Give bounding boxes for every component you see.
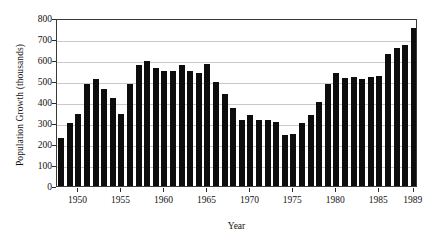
- x-axis-title: Year: [56, 221, 417, 231]
- x-tick-label-1965: 1965: [197, 195, 216, 206]
- bar-1968: [230, 108, 236, 186]
- x-tick-mark: [206, 188, 207, 192]
- bar-1955: [118, 114, 124, 186]
- bar-1953: [101, 89, 107, 186]
- bar-1962: [179, 65, 185, 186]
- bar-1956: [127, 84, 133, 186]
- bar-1983: [359, 79, 365, 186]
- bar-1971: [256, 120, 262, 186]
- x-tick-mark: [292, 188, 293, 192]
- bar-1976: [299, 123, 305, 186]
- bar-1954: [110, 98, 116, 186]
- bar-1969: [239, 120, 245, 186]
- x-tick-mark: [335, 188, 336, 192]
- x-tick-mark: [378, 188, 379, 192]
- x-tick-label-1975: 1975: [283, 195, 302, 206]
- bar-1963: [187, 71, 193, 187]
- bar-1951: [84, 84, 90, 186]
- x-tick-label-1960: 1960: [154, 195, 173, 206]
- y-tick-label-500: 500: [22, 77, 52, 87]
- bar-1989: [411, 28, 417, 186]
- bar-1982: [351, 77, 357, 186]
- bar-1977: [308, 115, 314, 186]
- x-tick-mark: [120, 188, 121, 192]
- bar-1950: [75, 114, 81, 186]
- bar-1972: [265, 120, 271, 186]
- bar-1952: [93, 79, 99, 186]
- bar-1984: [368, 77, 374, 186]
- bar-1965: [204, 64, 210, 186]
- x-tick-mark: [249, 188, 250, 192]
- y-axis-tick-labels: 0100200300400500600700800: [22, 0, 52, 246]
- x-tick-label-1955: 1955: [111, 195, 130, 206]
- population-growth-bar-chart: Population Growth (thousands) 0100200300…: [0, 0, 447, 246]
- bar-1978: [316, 102, 322, 186]
- y-tick-label-0: 0: [22, 182, 52, 192]
- x-tick-label-1985: 1985: [369, 195, 388, 206]
- y-tick-label-400: 400: [22, 98, 52, 108]
- y-tick-label-800: 800: [22, 14, 52, 24]
- bar-1966: [213, 82, 219, 186]
- bar-1949: [67, 123, 73, 186]
- bar-1975: [290, 134, 296, 186]
- bar-1967: [222, 94, 228, 186]
- bar-1958: [144, 61, 150, 186]
- bar-1973: [273, 122, 279, 186]
- x-tick-label-1980: 1980: [326, 195, 345, 206]
- x-tick-label-1950: 1950: [68, 195, 87, 206]
- x-tick-mark: [163, 188, 164, 192]
- bar-1980: [333, 73, 339, 186]
- bar-1979: [325, 84, 331, 186]
- bar-1959: [153, 68, 159, 186]
- bar-1961: [170, 71, 176, 186]
- y-tick-label-100: 100: [22, 161, 52, 171]
- plot-area: [56, 19, 417, 187]
- bar-1948: [58, 138, 64, 186]
- bar-1960: [161, 71, 167, 186]
- bar-1974: [282, 135, 288, 186]
- bar-1986: [385, 54, 391, 186]
- bar-1987: [394, 48, 400, 186]
- y-tick-label-600: 600: [22, 56, 52, 66]
- x-tick-label-1989: 1989: [403, 195, 422, 206]
- bar-1981: [342, 78, 348, 186]
- x-tick-label-1970: 1970: [240, 195, 259, 206]
- x-tick-mark: [77, 188, 78, 192]
- bar-1985: [376, 76, 382, 186]
- bar-1988: [402, 45, 408, 186]
- bar-1964: [196, 73, 202, 186]
- y-tick-label-300: 300: [22, 119, 52, 129]
- y-tick-label-200: 200: [22, 140, 52, 150]
- bar-series: [57, 20, 416, 186]
- y-tick-label-700: 700: [22, 35, 52, 45]
- bar-1957: [136, 65, 142, 186]
- bar-1970: [247, 115, 253, 186]
- x-tick-mark: [413, 188, 414, 192]
